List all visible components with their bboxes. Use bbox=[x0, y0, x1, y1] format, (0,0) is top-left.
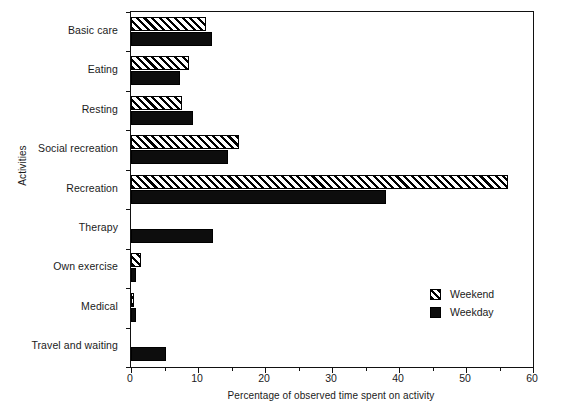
y-axis-tick bbox=[126, 130, 131, 131]
bar-weekend bbox=[131, 135, 239, 149]
legend-item: Weekend bbox=[430, 286, 494, 302]
bar-weekday bbox=[131, 150, 228, 164]
x-axis-tick-label: 30 bbox=[311, 372, 351, 384]
category-label: Travel and waiting bbox=[31, 339, 118, 351]
category-label: Own exercise bbox=[53, 260, 118, 272]
x-axis-tick-label: 60 bbox=[512, 372, 552, 384]
category-label-column: Basic careEatingRestingSocial recreation… bbox=[0, 11, 124, 366]
y-axis-tick bbox=[126, 12, 131, 13]
x-axis-tick-label: 50 bbox=[445, 372, 485, 384]
x-axis-title: Percentage of observed time spent on act… bbox=[130, 390, 532, 401]
bar-weekday bbox=[131, 32, 212, 46]
legend-item: Weekday bbox=[430, 304, 494, 320]
x-axis-tick-label: 10 bbox=[177, 372, 217, 384]
category-label: Medical bbox=[81, 300, 118, 312]
legend-swatch-weekend bbox=[430, 289, 441, 300]
y-axis-tick bbox=[126, 170, 131, 171]
bar-weekday bbox=[131, 111, 193, 125]
x-axis-tick-label: 40 bbox=[378, 372, 418, 384]
bar-weekend bbox=[131, 175, 508, 189]
category-label: Therapy bbox=[79, 221, 118, 233]
bar-weekday bbox=[131, 347, 166, 361]
x-axis-tick-label: 20 bbox=[244, 372, 284, 384]
x-axis-minor-tick bbox=[500, 367, 501, 371]
category-label: Resting bbox=[82, 103, 118, 115]
y-axis-tick bbox=[126, 91, 131, 92]
legend-label: Weekend bbox=[450, 288, 494, 300]
bar-weekday bbox=[131, 71, 180, 85]
y-axis-tick bbox=[126, 288, 131, 289]
legend-label: Weekday bbox=[450, 306, 494, 318]
bar-weekend bbox=[131, 253, 141, 267]
y-axis-tick bbox=[126, 209, 131, 210]
category-label: Social recreation bbox=[38, 142, 118, 154]
x-axis-minor-tick bbox=[232, 367, 233, 371]
x-axis-minor-tick bbox=[165, 367, 166, 371]
y-axis-tick bbox=[126, 249, 131, 250]
bar-weekday bbox=[131, 190, 386, 204]
x-axis-minor-tick bbox=[433, 367, 434, 371]
y-axis-tick bbox=[126, 328, 131, 329]
bar-weekday bbox=[131, 229, 213, 243]
legend-swatch-weekday bbox=[430, 307, 441, 318]
bar-weekend bbox=[131, 293, 134, 307]
category-label: Basic care bbox=[68, 24, 118, 36]
x-axis-minor-tick bbox=[299, 367, 300, 371]
bar-weekend bbox=[131, 56, 189, 70]
y-axis-tick bbox=[126, 51, 131, 52]
category-label: Recreation bbox=[66, 182, 118, 194]
bar-chart: Activities Basic careEatingRestingSocial… bbox=[0, 0, 576, 413]
bar-weekend bbox=[131, 96, 182, 110]
bar-weekday bbox=[131, 268, 136, 282]
category-label: Eating bbox=[88, 63, 118, 75]
chart-legend: WeekendWeekday bbox=[430, 286, 494, 322]
bar-weekend bbox=[131, 17, 206, 31]
x-axis-tick-label: 0 bbox=[110, 372, 150, 384]
bar-weekday bbox=[131, 308, 136, 322]
x-axis-minor-tick bbox=[366, 367, 367, 371]
